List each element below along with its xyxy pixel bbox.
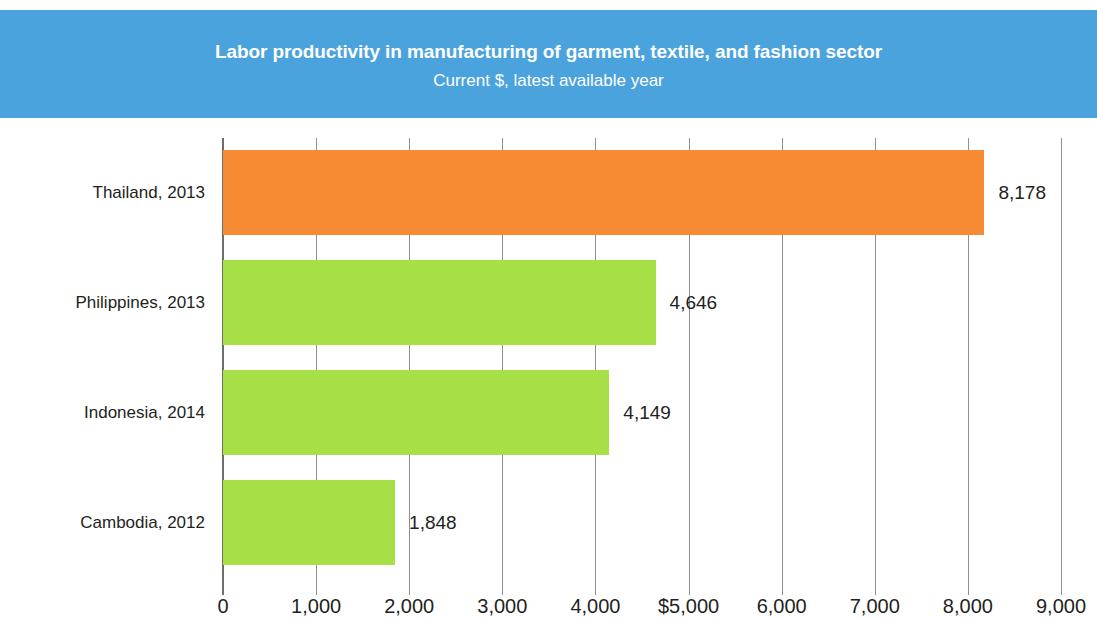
bars-layer: Thailand, 20138,178Philippines, 20134,64… — [0, 118, 1097, 613]
x-tick-label: 7,000 — [850, 595, 900, 618]
bar-row: Philippines, 20134,646 — [0, 260, 1097, 345]
bar-row: Indonesia, 20144,149 — [0, 370, 1097, 455]
chart-header-band: Labor productivity in manufacturing of g… — [0, 10, 1097, 118]
x-tick-label: 3,000 — [477, 595, 527, 618]
bar — [223, 480, 395, 565]
x-tick-label: 6,000 — [757, 595, 807, 618]
chart-title: Labor productivity in manufacturing of g… — [215, 41, 882, 64]
category-label-wrapper: Philippines, 2013 — [20, 260, 205, 345]
x-axis: 01,0002,0003,0004,000$5,0006,0007,0008,0… — [0, 595, 1097, 620]
category-label: Cambodia, 2012 — [20, 513, 205, 533]
bar — [223, 260, 656, 345]
bar — [223, 370, 609, 455]
x-tick-label: 4,000 — [570, 595, 620, 618]
plot-area: Thailand, 20138,178Philippines, 20134,64… — [0, 118, 1097, 613]
category-label-wrapper: Cambodia, 2012 — [20, 480, 205, 565]
x-tick-label: 8,000 — [943, 595, 993, 618]
x-tick-label: 1,000 — [291, 595, 341, 618]
bar-value-label: 1,848 — [409, 512, 457, 534]
chart-subtitle: Current $, latest available year — [433, 71, 664, 91]
bar-value-label: 4,149 — [623, 402, 671, 424]
category-label-wrapper: Indonesia, 2014 — [20, 370, 205, 455]
bar-value-label: 8,178 — [998, 182, 1046, 204]
x-tick-label: 9,000 — [1036, 595, 1086, 618]
category-label: Indonesia, 2014 — [20, 403, 205, 423]
category-label: Philippines, 2013 — [20, 293, 205, 313]
bar-value-label: 4,646 — [670, 292, 718, 314]
bar — [223, 150, 984, 235]
bar-row: Thailand, 20138,178 — [0, 150, 1097, 235]
x-tick-label: 2,000 — [384, 595, 434, 618]
category-label: Thailand, 2013 — [20, 183, 205, 203]
category-label-wrapper: Thailand, 2013 — [20, 150, 205, 235]
x-tick-label: 0 — [217, 595, 228, 618]
bar-row: Cambodia, 20121,848 — [0, 480, 1097, 565]
x-tick-label: $5,000 — [658, 595, 719, 618]
